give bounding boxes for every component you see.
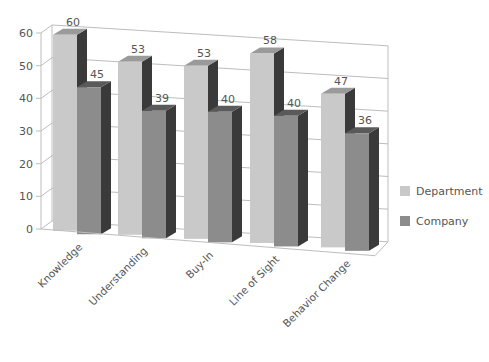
value-label: 53 bbox=[197, 47, 211, 60]
bar-company-1 bbox=[142, 105, 176, 238]
value-label: 45 bbox=[90, 68, 104, 81]
value-label: 60 bbox=[66, 16, 80, 29]
y-tick-label: 10 bbox=[19, 190, 33, 203]
y-tick-label: 20 bbox=[19, 158, 33, 171]
legend-item-company: Company bbox=[400, 206, 483, 236]
x-category-label: Buy-In bbox=[183, 249, 215, 281]
value-label: 40 bbox=[221, 93, 235, 106]
y-tick-label: 30 bbox=[19, 125, 33, 138]
y-tick-label: 50 bbox=[19, 60, 33, 73]
x-category-label: Behavior Change bbox=[280, 257, 352, 329]
legend-label-department: Department bbox=[416, 185, 483, 198]
y-tick-label: 40 bbox=[19, 92, 33, 105]
x-category-label: Understanding bbox=[86, 245, 149, 308]
legend-item-department: Department bbox=[400, 176, 483, 206]
bar-company-3 bbox=[274, 110, 308, 247]
value-label: 47 bbox=[334, 75, 348, 88]
y-axis: 0102030405060 bbox=[19, 27, 41, 236]
legend-swatch-company bbox=[400, 216, 410, 226]
bars bbox=[53, 29, 379, 251]
legend-label-company: Company bbox=[416, 215, 468, 228]
x-category-label: Line of Sight bbox=[226, 253, 281, 308]
value-label: 53 bbox=[131, 43, 145, 56]
bar-company-2 bbox=[208, 106, 242, 243]
y-tick-label: 60 bbox=[19, 27, 33, 40]
x-category-label: Knowledge bbox=[35, 241, 84, 290]
legend-swatch-department bbox=[400, 186, 410, 196]
y-tick-label: 0 bbox=[26, 223, 33, 236]
legend: Department Company bbox=[400, 176, 483, 236]
value-label: 36 bbox=[358, 114, 372, 127]
value-label: 58 bbox=[263, 34, 277, 47]
bar-company-4 bbox=[345, 127, 379, 251]
value-label: 39 bbox=[155, 92, 169, 105]
value-label: 40 bbox=[287, 97, 301, 110]
bar-company-0 bbox=[77, 81, 111, 234]
